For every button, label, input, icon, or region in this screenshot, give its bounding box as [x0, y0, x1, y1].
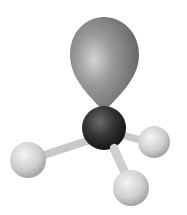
atom-bottom: [113, 170, 149, 206]
atom-right: [138, 126, 170, 158]
lone-pair-lobe: [70, 17, 139, 112]
atom-left: [10, 142, 46, 178]
molecule-model: [0, 0, 187, 215]
central-atom: [82, 106, 126, 150]
